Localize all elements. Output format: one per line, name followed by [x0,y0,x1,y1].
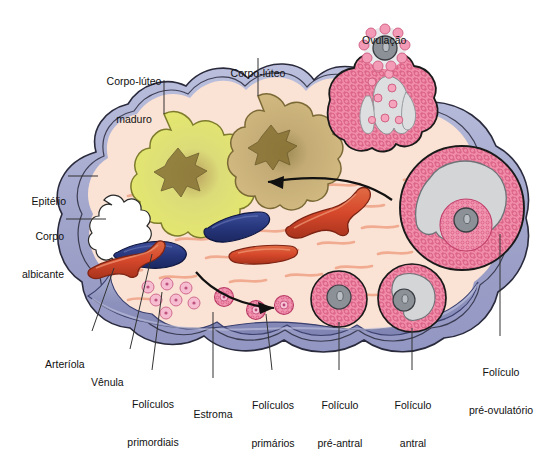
label-ovulacao: Ovulação [362,9,406,59]
label-line: maduro [89,113,179,126]
primordial-follicle [170,294,182,306]
preovulatory-follicle [400,146,524,270]
label-line: albicante [0,268,64,281]
label-line: pré-antral [303,437,377,450]
label-line: Folículo [378,399,448,412]
oocyte-antral-nucleus [402,295,408,304]
antral-follicle [378,264,446,332]
label-line: Folículo [303,399,377,412]
preantral-follicle [311,271,367,327]
label-line: antral [378,437,448,450]
label-foliculo-antral: Folículo antral [378,374,448,453]
primordial-follicle [160,307,172,319]
label-line: primários [236,437,310,450]
oocyte-nucleus [464,214,470,223]
label-corpo-albicante: Corpo albicante [0,205,64,293]
label-line: Corpo-lúteo [89,75,179,88]
label-line: Arteríola [45,358,85,371]
label-line: Corpo [0,230,64,243]
primordial-follicle [188,297,200,309]
label-arteriola: Arteríola [45,333,85,383]
label-foliculos-primarios: Folículos primários [236,374,310,453]
label-line: Folículo [453,366,549,379]
primordial-follicle [161,278,173,290]
label-foliculo-pre-ovulatorio: Folículo pré-ovulatório [453,341,549,429]
label-line: Folículos [236,399,310,412]
primary-follicle-3 [275,296,294,315]
oocyte-preantral-nucleus [337,291,343,300]
label-line: primordiais [103,436,203,449]
label-corpo-luteo-maduro: Corpo-lúteo maduro [89,50,179,138]
label-line: Corpo-lúteo [213,67,303,80]
label-line: Ovulação [362,34,406,47]
primordial-follicle [180,282,192,294]
label-foliculo-pre-antral: Folículo pré-antral [303,374,377,453]
label-corpo-luteo: Corpo-lúteo [213,42,303,92]
label-line: pré-ovulatório [453,404,549,417]
